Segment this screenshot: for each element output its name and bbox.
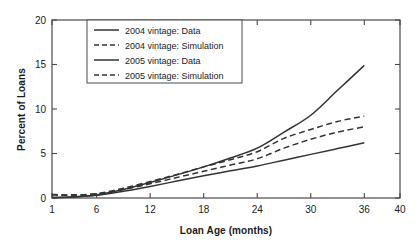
svg-text:1: 1 <box>49 204 55 215</box>
svg-text:15: 15 <box>35 59 47 70</box>
svg-text:6: 6 <box>94 204 100 215</box>
svg-text:24: 24 <box>252 204 264 215</box>
svg-text:18: 18 <box>198 204 210 215</box>
svg-text:20: 20 <box>35 15 47 26</box>
data-series <box>52 65 364 197</box>
legend-label-2: 2005 vintage: Data <box>125 56 201 66</box>
chart-figure: Percent of Loans Loan Age (months) 16121… <box>0 0 420 249</box>
svg-text:10: 10 <box>35 104 47 115</box>
legend-label-1: 2004 vintage: Simulation <box>125 41 224 51</box>
series-line-2 <box>52 143 364 198</box>
series-line-1 <box>52 116 364 195</box>
series-line-0 <box>52 65 364 197</box>
svg-text:36: 36 <box>359 204 371 215</box>
svg-text:5: 5 <box>40 148 46 159</box>
svg-text:12: 12 <box>145 204 157 215</box>
svg-text:30: 30 <box>305 204 317 215</box>
legend-label-3: 2005 vintage: Simulation <box>125 71 224 81</box>
legend-label-0: 2004 vintage: Data <box>125 26 201 36</box>
chart-legend: 2004 vintage: Data2004 vintage: Simulati… <box>87 20 242 83</box>
svg-text:0: 0 <box>40 193 46 204</box>
svg-text:40: 40 <box>394 204 406 215</box>
plot-canvas: 1612182430364005101520 2004 vintage: Dat… <box>0 0 420 249</box>
series-line-3 <box>52 127 364 196</box>
